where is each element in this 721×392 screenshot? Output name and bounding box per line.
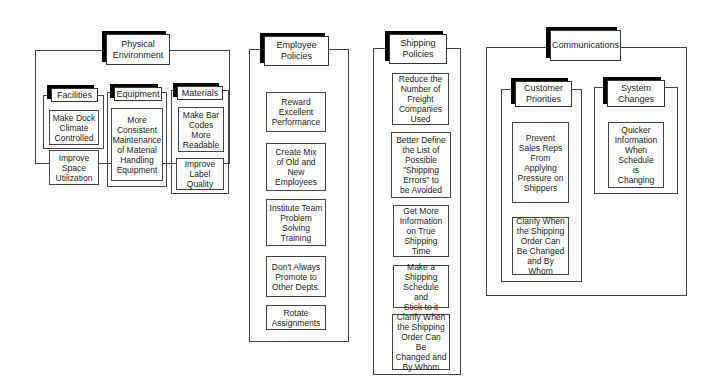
item-make-shipping-schedule: Make a Shipping Schedule and Stick to it — [393, 265, 449, 308]
item-dont-always-promote: Don't Always Promote to Other Depts. — [266, 256, 326, 297]
communications-header: Communications — [550, 30, 621, 61]
item-consistent-maintenance: More Consistent Maintenance of Material … — [111, 108, 163, 181]
customer-priorities-header: Customer Priorities — [515, 81, 572, 107]
equipment-header: Equipment — [114, 87, 162, 101]
materials-header: Materials — [177, 86, 223, 100]
item-make-dock-climate-controlled: Make Dock Climate Controlled — [49, 110, 99, 145]
shipping-policies-header: Shipping Policies — [389, 34, 447, 64]
item-reward-excellent-performance: Reward Excellent Performance — [266, 92, 326, 132]
facilities-header: Facilities — [51, 88, 98, 102]
item-clarify-order-change: Clarify When the Shipping Order Can Be C… — [512, 217, 569, 275]
employee-policies-header: Employee Policies — [264, 36, 329, 66]
physical-environment-header: Physical Environment — [106, 34, 170, 65]
item-reduce-freight-companies: Reduce the Number of Freight Companies U… — [392, 73, 449, 125]
item-make-bar-codes-readable: Make Bar Codes More Readable — [178, 107, 224, 152]
item-clarify-shipping-order: Clarify When the Shipping Order Can Be C… — [392, 314, 450, 370]
item-improve-space-utilization: Improve Space Utilization — [49, 150, 99, 185]
system-changes-header: System Changes — [607, 80, 665, 107]
item-quicker-schedule-info: Quicker Information When Schedule is Cha… — [608, 122, 664, 188]
item-prevent-sales-pressure: Prevent Sales Reps From Applying Pressur… — [512, 122, 569, 203]
item-improve-label-quality: Improve Label Quality — [176, 158, 224, 190]
item-institute-team-training: Institute Team Problem Solving Training — [266, 199, 326, 246]
item-define-shipping-errors: Better Define the List of Possible "Ship… — [391, 132, 451, 198]
item-more-shipping-time-info: Get More Information on True Shipping Ti… — [393, 205, 449, 257]
item-rotate-assignments: Rotate Assignments — [266, 305, 326, 330]
item-create-mix-employees: Create Mix of Old and New Employees — [266, 143, 326, 191]
